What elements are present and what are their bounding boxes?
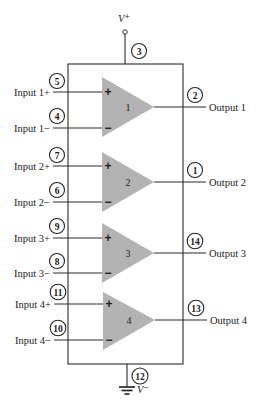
output-label: Output 3 bbox=[209, 248, 246, 259]
pin-badge-input-minus: 10 bbox=[50, 320, 66, 336]
vplus-terminal-icon bbox=[123, 30, 127, 34]
pin-badge-input-plus: 11 bbox=[50, 284, 66, 300]
pin-badge-input-minus: 6 bbox=[50, 183, 65, 198]
input-plus-label: Input 4+ bbox=[15, 299, 51, 310]
plus-sign: + bbox=[104, 85, 111, 99]
pin-badge-output: 13 bbox=[188, 300, 204, 316]
pin-number: 12 bbox=[135, 372, 145, 382]
output-label: Output 4 bbox=[210, 315, 248, 326]
amplifier-number: 2 bbox=[126, 177, 131, 188]
op-amp-pinout-diagram: V⁺ 3 1 + − Input 1+ Input 1− Output 1 5 … bbox=[0, 0, 262, 405]
amplifier-number: 3 bbox=[126, 248, 131, 259]
amplifier-2: 2 + − Input 2+ Input 2− Output 2 7 6 1 bbox=[14, 148, 246, 213]
input-plus-label: Input 3+ bbox=[14, 233, 50, 244]
vminus-supply: V⁻ 12 bbox=[119, 364, 149, 395]
pin-number: 1 bbox=[193, 166, 198, 176]
plus-sign: + bbox=[104, 231, 111, 245]
minus-sign: − bbox=[104, 195, 111, 209]
pin-number: 14 bbox=[190, 237, 200, 247]
pin-badge-input-plus: 7 bbox=[50, 148, 65, 163]
pin-number: 13 bbox=[191, 304, 201, 314]
input-minus-label: Input 2− bbox=[14, 197, 50, 208]
pin-badge-input-minus: 4 bbox=[50, 109, 65, 124]
pin-badge-output: 14 bbox=[187, 233, 203, 249]
vplus-label: V⁺ bbox=[118, 13, 130, 24]
minus-sign: − bbox=[104, 121, 111, 135]
plus-sign: + bbox=[104, 159, 111, 173]
pin-badge-input-plus: 9 bbox=[50, 219, 65, 234]
input-plus-label: Input 2+ bbox=[14, 161, 50, 172]
pin-number: 11 bbox=[54, 288, 63, 298]
amplifier-3: 3 + − Input 3+ Input 3− Output 3 9 8 14 bbox=[14, 219, 246, 284]
input-minus-label: Input 3− bbox=[14, 268, 50, 279]
pin-number: 10 bbox=[53, 324, 63, 334]
pin-badge-input-plus: 5 bbox=[50, 74, 65, 89]
pin-number: 6 bbox=[55, 186, 60, 196]
amplifier-1: 1 + − Input 1+ Input 1− Output 1 5 4 2 bbox=[14, 74, 246, 138]
ground-icon bbox=[119, 387, 135, 394]
input-minus-label: Input 1− bbox=[14, 123, 50, 134]
input-plus-label: Input 1+ bbox=[14, 87, 50, 98]
pin-number: 9 bbox=[55, 222, 60, 232]
minus-sign: − bbox=[105, 333, 112, 347]
input-minus-label: Input 4− bbox=[15, 335, 51, 346]
pin-badge-output: 1 bbox=[188, 163, 203, 178]
amplifier-4: 4 + − Input 4+ Input 4− Output 4 11 10 1… bbox=[15, 284, 248, 350]
pin-badge-vplus: 3 bbox=[132, 44, 147, 59]
pin-number: 2 bbox=[193, 91, 198, 101]
amplifier-number: 1 bbox=[126, 102, 131, 113]
pin-number: 7 bbox=[55, 151, 60, 161]
output-label: Output 1 bbox=[209, 102, 246, 113]
output-label: Output 2 bbox=[209, 177, 246, 188]
vplus-supply: V⁺ 3 bbox=[118, 13, 147, 64]
plus-sign: + bbox=[105, 297, 112, 311]
pin-number: 5 bbox=[55, 77, 60, 87]
pin-number: 3 bbox=[137, 47, 142, 57]
amplifier-number: 4 bbox=[127, 315, 132, 326]
pin-badge-output: 2 bbox=[188, 88, 203, 103]
pin-badge-input-minus: 8 bbox=[50, 254, 65, 269]
pin-number: 4 bbox=[55, 112, 60, 122]
minus-sign: − bbox=[104, 266, 111, 280]
pin-number: 8 bbox=[55, 257, 60, 267]
pin-badge-vminus: 12 bbox=[132, 368, 148, 384]
vminus-label: V⁻ bbox=[137, 384, 149, 395]
